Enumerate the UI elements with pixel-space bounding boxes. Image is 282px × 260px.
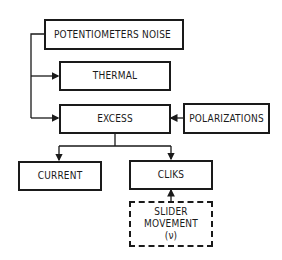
node-polarizations: POLARIZATIONS [183,103,270,134]
node-cliks: CLIKS [129,160,213,190]
node-label: POTENTIOMETERS NOISE [54,29,171,41]
node-excess: EXCESS [59,104,171,134]
node-slider-movement: SLIDER MOVEMENT (ν) [129,201,213,247]
node-label-line2: MOVEMENT [144,218,198,230]
node-label-line3: (ν) [165,230,178,242]
node-label-line1: SLIDER [154,206,187,218]
node-label: THERMAL [93,70,138,82]
node-label: EXCESS [97,113,133,125]
node-label: POLARIZATIONS [189,113,264,125]
node-label: CLIKS [158,169,185,181]
node-potentiometers-noise: POTENTIOMETERS NOISE [44,19,184,50]
node-current: CURRENT [18,161,102,191]
node-label: CURRENT [38,170,83,182]
node-thermal: THERMAL [59,61,171,91]
edge-excess-split [59,133,171,146]
